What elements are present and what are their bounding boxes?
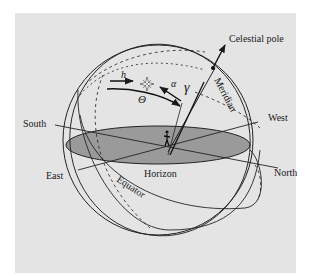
meridian-label: Meridian <box>212 76 239 114</box>
celestial-pole-arrow <box>213 45 225 68</box>
right-ascension-arrow <box>160 87 181 101</box>
south-label: South <box>23 118 46 129</box>
hour-angle-symbol: Θ <box>138 93 146 105</box>
vernal-equinox-symbol: γ <box>184 80 190 95</box>
horizon-label: Horizon <box>144 168 177 179</box>
west-label: West <box>268 112 288 123</box>
east-label: East <box>46 170 63 181</box>
right-ascension-symbol: α <box>171 78 177 89</box>
north-label: North <box>274 167 297 178</box>
celestial-pole-label: Celestial pole <box>229 33 284 44</box>
celestial-sphere-diagram: Celestial pole Meridian South West East … <box>0 0 321 276</box>
altitude-symbol: h <box>121 69 126 80</box>
star-icon <box>140 77 154 91</box>
